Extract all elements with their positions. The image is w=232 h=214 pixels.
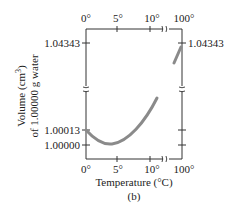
volume-curve-high <box>174 47 181 63</box>
x-top-tick-10: 10° <box>144 12 159 24</box>
y-axis-title-line1: Volume (cm3) <box>14 65 28 127</box>
plot-frame <box>86 29 182 159</box>
x-bottom-tick-5: 5° <box>113 163 123 175</box>
y-left-tick-1-00013: 1.00013 <box>44 124 80 136</box>
volume-curve-low <box>86 98 157 144</box>
x-bottom-tick-10: 10° <box>144 163 159 175</box>
y-left-tick-1-04343: 1.04343 <box>44 37 80 49</box>
x-bottom-tick-100: 100° <box>174 163 195 175</box>
y-axis-title-line2: of 1.00000 g water <box>28 54 40 137</box>
x-axis-title: Temperature (°C) <box>95 176 173 189</box>
x-top-tick-100: 100° <box>174 12 195 24</box>
y-axis-title: Volume (cm3) <box>14 65 28 127</box>
figure-caption: (b) <box>128 190 141 203</box>
x-top-tick-5: 5° <box>113 12 123 24</box>
x-top-tick-0: 0° <box>81 12 91 24</box>
x-bottom-tick-0: 0° <box>81 163 91 175</box>
y-left-tick-1-00000: 1.00000 <box>44 139 80 151</box>
y-right-tick-1-04343: 1.04343 <box>188 37 224 49</box>
volume-temperature-chart: 0° 5° 10° 100° 0° 5° 10° 100° 1.04343 1.… <box>0 0 232 214</box>
y-axis-title-2: of 1.00000 g water <box>28 54 40 137</box>
